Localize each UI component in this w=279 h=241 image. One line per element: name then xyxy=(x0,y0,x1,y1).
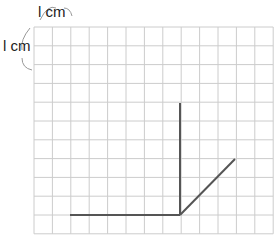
left-unit-label: l cm xyxy=(3,38,31,53)
diagonal-segment xyxy=(180,159,235,215)
top-unit-label: l cm xyxy=(38,4,66,19)
square-grid xyxy=(34,27,273,234)
grid-diagram xyxy=(0,0,279,241)
